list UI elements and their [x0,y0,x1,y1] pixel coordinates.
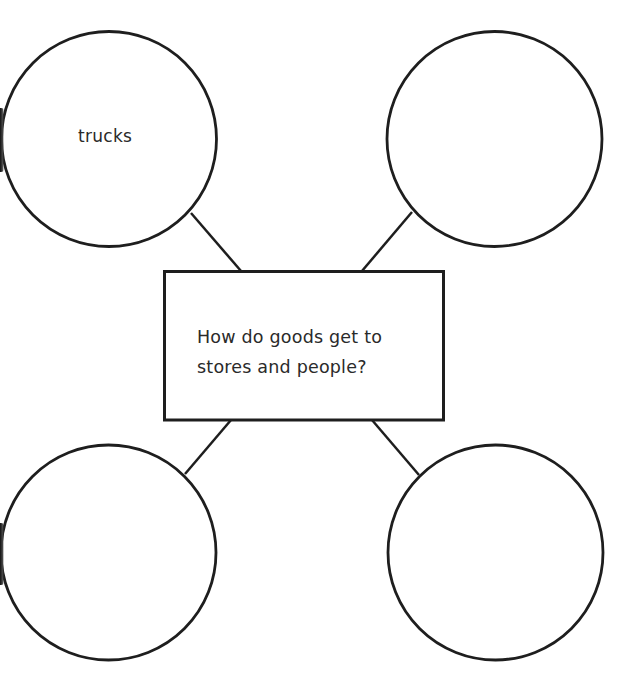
bubble-map-diagram: trucks How do goods get to stores and pe… [0,0,625,692]
connector-top-right [362,212,412,271]
bubble-top-right [387,32,602,247]
connector-bottom-left [185,420,231,474]
bubble-bottom-right [388,445,603,660]
center-question-line-2: stores and people? [197,352,382,382]
bubble-bottom-left [1,445,216,660]
scan-edge-shadow-top [0,108,4,172]
connector-top-left [191,213,241,271]
scan-edge-shadow-bottom [0,523,4,585]
center-question-line-1: How do goods get to [197,322,382,352]
connector-bottom-right [372,420,419,475]
center-question: How do goods get to stores and people? [197,322,382,382]
bubble-top-left-label: trucks [78,121,132,151]
